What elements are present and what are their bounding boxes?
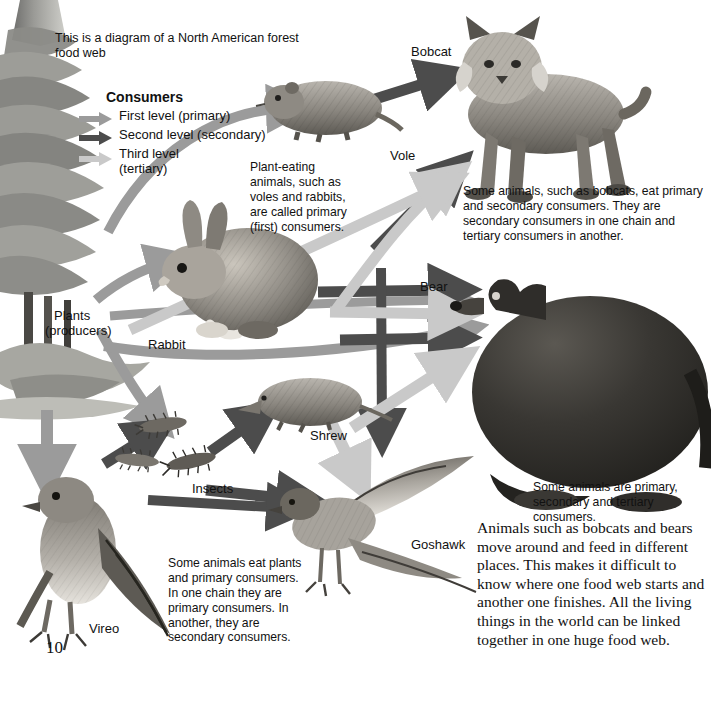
note-primary-consumers: Plant-eating animals, such as voles and …	[250, 160, 360, 234]
body-paragraph: Animals such as bobcats and bears move a…	[477, 519, 705, 649]
page-number: 10	[46, 638, 63, 659]
label-bobcat: Bobcat	[411, 44, 451, 60]
label-rabbit: Rabbit	[148, 337, 186, 353]
legend-label-third-line1: Third level	[119, 146, 179, 162]
arrow-vole-to-bear	[340, 338, 452, 340]
bobcat-illustration	[456, 16, 646, 203]
arrow-shrew-to-bear	[352, 364, 452, 428]
label-insects: Insects	[192, 481, 233, 497]
legend-label-second: Second level (secondary)	[119, 127, 266, 143]
note-bear: Some animals are primary, secondary and …	[533, 480, 699, 525]
legend-label-third-line2: (tertiary)	[119, 161, 167, 177]
legend-label-first: First level (primary)	[119, 108, 230, 124]
label-bear: Bear	[420, 279, 447, 295]
legend-arrow-third-icon	[79, 152, 112, 166]
arrow-plants-to-rabbit	[96, 262, 168, 300]
arrow-insects-to-shrew	[210, 418, 258, 452]
arrow-vole-to-bobcat	[372, 78, 442, 100]
arrow-goshawk-to-bear	[330, 312, 452, 314]
vole-illustration	[256, 81, 402, 142]
note-bobcat: Some animals, such as bobcats, eat prima…	[463, 184, 707, 244]
intro-text: This is a diagram of a North American fo…	[55, 31, 301, 62]
legend-arrow-first-icon	[79, 112, 112, 126]
label-vole: Vole	[390, 148, 415, 164]
bear-illustration	[450, 279, 708, 512]
plants-illustration	[0, 0, 150, 420]
food-web-diagram: This is a diagram of a North American fo…	[0, 0, 711, 703]
legend-arrow-second-icon	[79, 131, 112, 145]
legend-title: Consumers	[106, 89, 183, 106]
label-plants-line1: Plants	[54, 308, 90, 324]
note-vireo: Some animals eat plants and primary cons…	[168, 556, 302, 645]
label-plants-line2: (producers)	[45, 323, 111, 339]
label-shrew: Shrew	[310, 428, 347, 444]
label-vireo: Vireo	[89, 621, 119, 637]
label-goshawk: Goshawk	[411, 537, 465, 553]
